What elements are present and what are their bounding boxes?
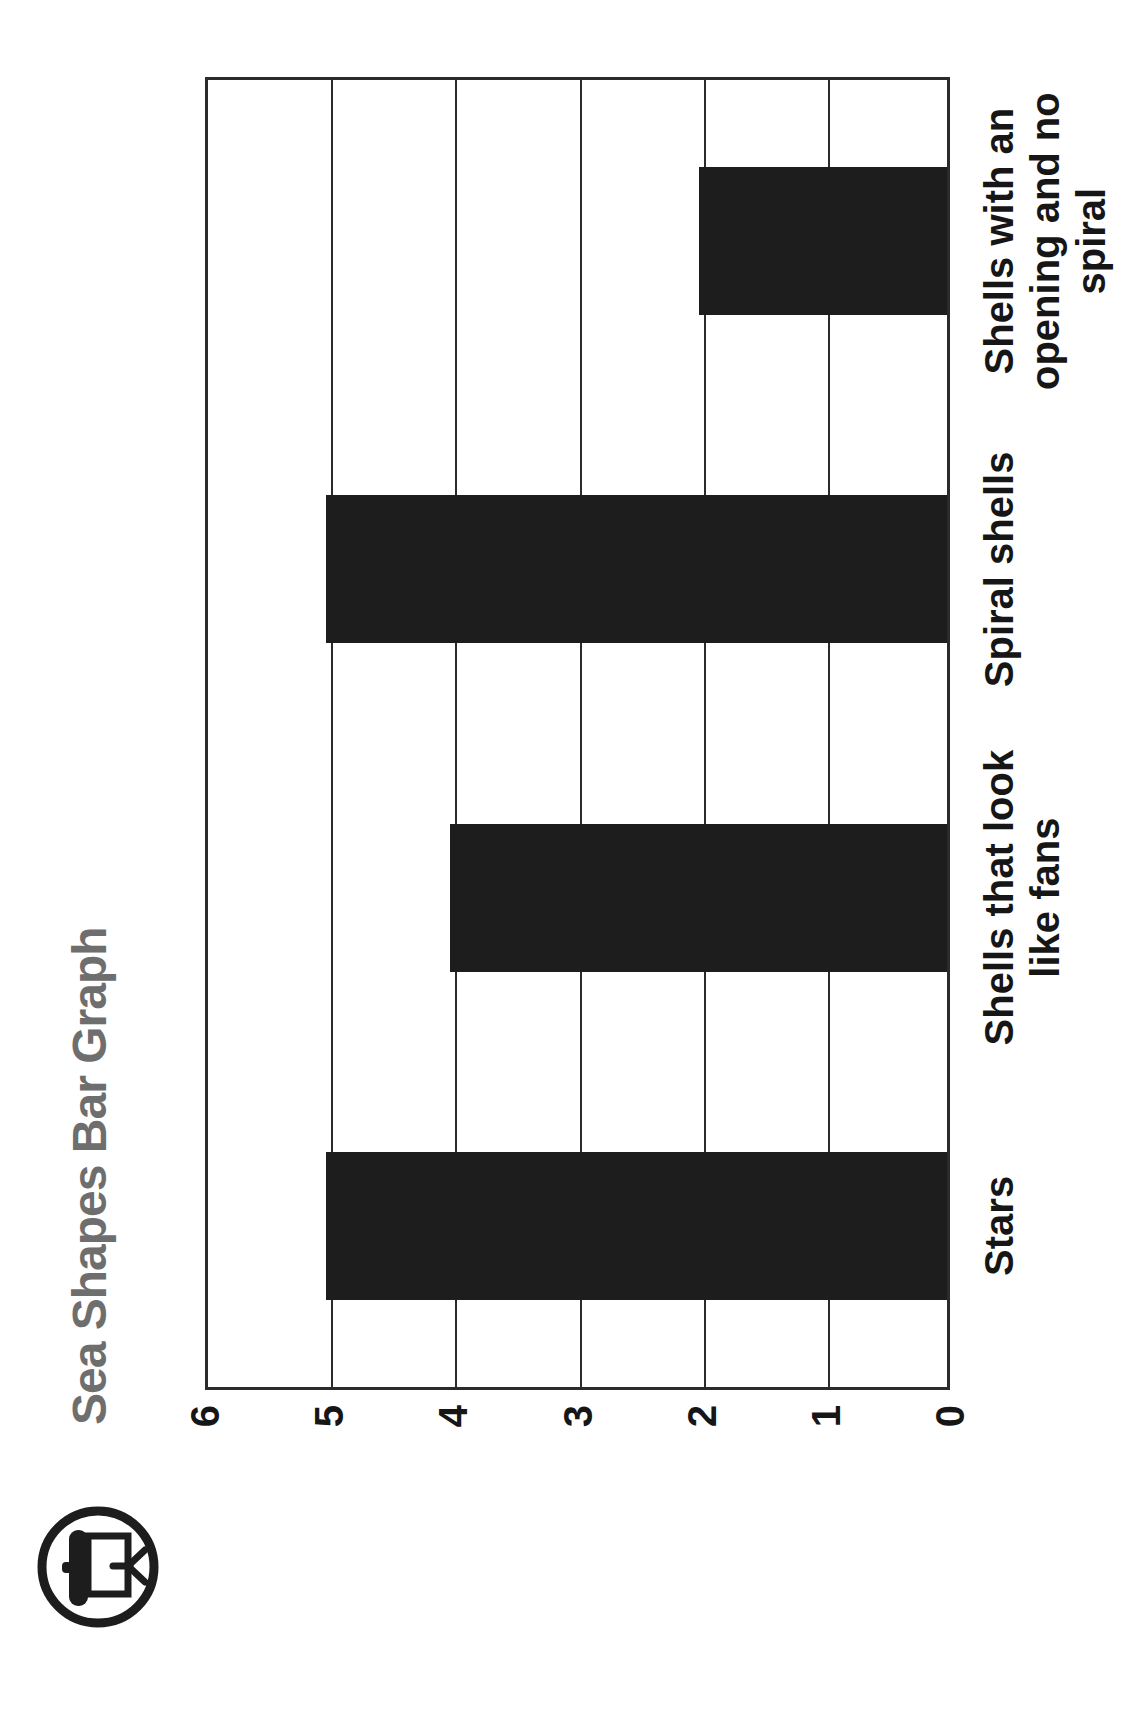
y-tick-label-1: 1 bbox=[802, 1405, 850, 1535]
worksheet-page: Sea Shapes Bar Graph 6543210 StarsShells… bbox=[0, 0, 1144, 1713]
y-tick-label-3: 3 bbox=[554, 1405, 602, 1535]
projector-screen-icon-svg bbox=[33, 1502, 163, 1632]
chart-plot-area bbox=[205, 77, 950, 1390]
x-category-label-line: spiral bbox=[1068, 77, 1114, 405]
page-title: Sea Shapes Bar Graph bbox=[66, 927, 114, 1425]
bar-2 bbox=[326, 495, 947, 643]
bar-3 bbox=[699, 167, 947, 315]
x-category-label-0: Stars bbox=[976, 1062, 1022, 1390]
x-category-label-2: Spiral shells bbox=[976, 405, 1022, 733]
y-tick-label-6: 6 bbox=[181, 1405, 229, 1535]
x-category-label-3: Shells with anopening and nospiral bbox=[976, 77, 1114, 405]
x-category-label-line: Spiral shells bbox=[976, 405, 1022, 733]
y-tick-label-2: 2 bbox=[678, 1405, 726, 1535]
projector-screen-icon bbox=[33, 1502, 163, 1632]
y-tick-label-4: 4 bbox=[429, 1405, 477, 1535]
x-category-label-line: opening and no bbox=[1022, 77, 1068, 405]
x-category-label-line: Stars bbox=[976, 1062, 1022, 1390]
y-tick-label-0: 0 bbox=[926, 1405, 974, 1535]
x-category-label-line: like fans bbox=[1022, 734, 1068, 1062]
bar-0 bbox=[326, 1152, 947, 1300]
x-category-label-line: Shells that look bbox=[976, 734, 1022, 1062]
x-category-label-1: Shells that looklike fans bbox=[976, 734, 1068, 1062]
bar-1 bbox=[450, 824, 947, 972]
x-category-label-line: Shells with an bbox=[976, 77, 1022, 405]
y-tick-label-5: 5 bbox=[305, 1405, 353, 1535]
